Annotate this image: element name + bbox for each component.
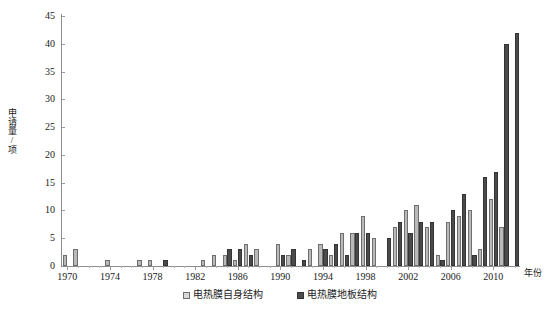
x-minor-tick-mark — [429, 266, 430, 268]
bar — [419, 222, 423, 266]
bar — [408, 233, 412, 266]
x-minor-tick-mark — [121, 266, 122, 268]
bar — [504, 44, 508, 266]
bar — [483, 177, 487, 266]
legend-swatch-icon-series-0 — [183, 292, 190, 299]
x-tick-mark — [280, 266, 281, 270]
x-tick-mark — [67, 266, 68, 270]
x-minor-tick-mark — [259, 266, 260, 268]
y-tick-label: 40 — [45, 39, 55, 49]
bar — [398, 222, 402, 266]
x-tick-label: 1998 — [356, 271, 376, 283]
x-minor-tick-mark — [344, 266, 345, 268]
x-minor-tick-mark — [163, 266, 164, 268]
x-tick-label: 1982 — [185, 271, 205, 283]
bar — [462, 194, 466, 266]
x-minor-tick-mark — [440, 266, 441, 268]
x-minor-tick-mark — [291, 266, 292, 268]
bar — [387, 238, 391, 266]
bar — [340, 233, 344, 266]
x-minor-tick-mark — [184, 266, 185, 268]
bar — [254, 249, 258, 266]
x-tick-label: 1986 — [228, 271, 248, 283]
x-tick-mark — [323, 266, 324, 270]
y-axis-title: 申请量/项 — [1, 108, 17, 154]
legend-label-series-1: 电热膜地板结构 — [307, 289, 377, 301]
bar — [425, 227, 429, 266]
bar — [468, 210, 472, 266]
y-axis-ticks: 051015202530354045 — [24, 10, 60, 272]
x-tick-mark — [493, 266, 494, 270]
x-minor-tick-mark — [78, 266, 79, 268]
x-minor-tick-mark — [99, 266, 100, 268]
bar — [291, 249, 295, 266]
x-tick-mark — [195, 266, 196, 270]
bar-chart: 申请量/项 051015202530354045 197019741978198… — [0, 0, 559, 313]
legend-item-series-1[interactable]: 电热膜地板结构 — [297, 289, 377, 301]
y-tick-label: 15 — [45, 178, 55, 188]
x-minor-tick-mark — [504, 266, 505, 268]
bar — [355, 233, 359, 266]
bar — [227, 249, 231, 266]
x-tick-label: 1978 — [143, 271, 163, 283]
bar — [223, 255, 227, 266]
x-axis-title: 年份 — [524, 268, 542, 279]
x-minor-tick-mark — [216, 266, 217, 268]
y-tick-label: 5 — [50, 233, 55, 243]
y-tick-label: 25 — [45, 122, 55, 132]
x-minor-tick-mark — [227, 266, 228, 268]
y-tick-label: 30 — [45, 94, 55, 104]
bar — [345, 255, 349, 266]
bar — [350, 233, 354, 266]
bar — [404, 210, 408, 266]
bar — [494, 172, 498, 266]
x-tick-mark — [408, 266, 409, 270]
bar — [238, 249, 242, 266]
legend-label-series-0: 电热膜自身结构 — [193, 289, 263, 301]
x-minor-tick-mark — [355, 266, 356, 268]
x-tick-label: 2006 — [441, 271, 461, 283]
x-minor-tick-mark — [387, 266, 388, 268]
x-tick-label: 1970 — [57, 271, 77, 283]
y-tick-label: 20 — [45, 150, 55, 160]
x-tick-mark — [153, 266, 154, 270]
bar — [318, 244, 322, 266]
bar — [366, 233, 370, 266]
bar — [276, 244, 280, 266]
bar — [323, 249, 327, 266]
x-minor-tick-mark — [270, 266, 271, 268]
bar — [414, 205, 418, 266]
bar — [308, 249, 312, 266]
bar — [436, 255, 440, 266]
x-minor-tick-mark — [206, 266, 207, 268]
bar — [515, 33, 519, 266]
x-minor-tick-mark — [142, 266, 143, 268]
bar — [361, 216, 365, 266]
x-minor-tick-mark — [131, 266, 132, 268]
y-tick-label: 0 — [50, 261, 55, 271]
bar — [281, 255, 285, 266]
y-tick-label: 10 — [45, 205, 55, 215]
bar — [489, 199, 493, 266]
bar — [393, 227, 397, 266]
plot-area — [62, 16, 520, 266]
x-minor-tick-mark — [302, 266, 303, 268]
bar — [372, 238, 376, 266]
bar — [329, 255, 333, 266]
x-minor-tick-mark — [376, 266, 377, 268]
x-tick-mark — [238, 266, 239, 270]
x-tick-label: 1994 — [313, 271, 333, 283]
y-tick-label: 45 — [45, 11, 55, 21]
legend-swatch-icon-series-1 — [297, 292, 304, 299]
x-minor-tick-mark — [334, 266, 335, 268]
bar — [334, 244, 338, 266]
x-tick-label: 1990 — [270, 271, 290, 283]
bar — [212, 255, 216, 266]
x-minor-tick-mark — [472, 266, 473, 268]
bar — [249, 255, 253, 266]
x-tick-mark — [110, 266, 111, 270]
x-minor-tick-mark — [515, 266, 516, 268]
legend-item-series-0[interactable]: 电热膜自身结构 — [183, 289, 263, 301]
x-minor-tick-mark — [398, 266, 399, 268]
x-minor-tick-mark — [461, 266, 462, 268]
